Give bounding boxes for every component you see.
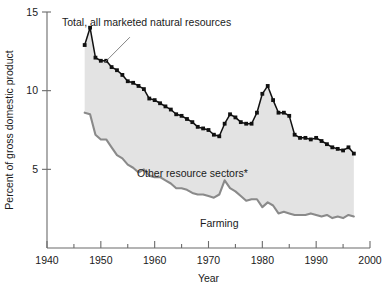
y-axis-tick-label: 5 [32, 163, 38, 175]
data-point-marker [239, 120, 243, 124]
data-point-marker [347, 145, 351, 149]
data-point-marker [325, 142, 329, 146]
y-axis-tick-label: 10 [26, 84, 38, 96]
total-label-leader-line [104, 37, 130, 63]
data-point-marker [201, 127, 205, 131]
other-label: Other resource sectors* [137, 167, 248, 179]
data-point-marker [207, 128, 211, 132]
x-axis-title: Year [198, 272, 220, 284]
data-point-marker [336, 147, 340, 151]
data-point-marker [83, 43, 87, 47]
chart-figure: 51015 1940195019601970198019902000 Year … [0, 0, 384, 289]
data-point-marker [287, 114, 291, 118]
y-axis-tick-label: 15 [26, 6, 38, 18]
data-point-marker [314, 136, 318, 140]
farming-label: Farming [200, 217, 239, 229]
x-axis-tick-label: 2000 [358, 254, 382, 266]
total-label: Total, all marketed natural resources [62, 16, 231, 28]
data-point-marker [271, 98, 275, 102]
data-point-marker [309, 138, 313, 142]
data-point-marker [223, 122, 227, 126]
data-point-marker [228, 112, 232, 116]
data-point-marker [250, 122, 254, 126]
data-point-marker [266, 84, 270, 88]
data-point-marker [282, 111, 286, 115]
data-point-marker [260, 92, 264, 96]
data-point-marker [196, 125, 200, 129]
y-axis-tick-labels: 51015 [26, 6, 38, 175]
y-axis-title: Percent of gross domestic product [3, 50, 15, 209]
data-point-marker [180, 114, 184, 118]
plot-area [83, 26, 356, 218]
data-point-marker [99, 59, 103, 63]
data-point-marker [190, 120, 194, 124]
data-point-marker [158, 101, 162, 105]
x-axis-tick-label: 1990 [304, 254, 328, 266]
data-point-marker [255, 111, 259, 115]
x-axis-tick-label: 1950 [89, 254, 113, 266]
data-point-marker [137, 84, 141, 88]
x-axis-tick-label: 1960 [143, 254, 167, 266]
data-point-marker [169, 108, 173, 112]
data-point-marker [110, 65, 114, 69]
x-axis-tick-label: 1980 [251, 254, 275, 266]
x-axis-tick-labels: 1940195019601970198019902000 [35, 254, 382, 266]
data-point-marker [164, 105, 168, 109]
data-point-marker [217, 134, 221, 138]
data-point-marker [277, 111, 281, 115]
data-point-marker [341, 149, 345, 153]
data-point-marker [126, 79, 130, 83]
chart-svg: 51015 1940195019601970198019902000 Year … [0, 0, 384, 289]
x-axis-tick-label: 1940 [35, 254, 59, 266]
x-axis-tick-label: 1970 [197, 254, 221, 266]
data-point-marker [320, 139, 324, 143]
data-point-marker [120, 73, 124, 77]
data-point-marker [330, 145, 334, 149]
data-point-marker [147, 97, 151, 101]
data-point-marker [174, 112, 178, 116]
data-point-marker [185, 117, 189, 121]
data-point-marker [304, 136, 308, 140]
data-point-marker [293, 133, 297, 137]
data-point-marker [153, 98, 157, 102]
data-point-marker [244, 122, 248, 126]
data-point-marker [131, 81, 135, 85]
data-point-marker [298, 136, 302, 140]
x-axis-ticks [47, 241, 370, 248]
data-point-marker [115, 68, 119, 72]
area-band-other-resource-sectors [85, 28, 354, 218]
data-point-marker [212, 133, 216, 137]
data-point-marker [234, 116, 238, 120]
data-point-marker [352, 152, 356, 156]
data-point-marker [94, 56, 98, 60]
data-point-marker [142, 87, 146, 91]
